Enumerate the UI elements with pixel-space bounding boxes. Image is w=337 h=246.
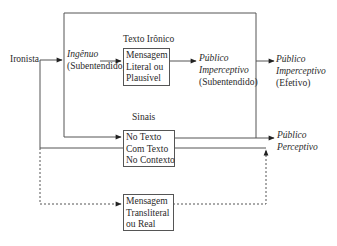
line-ironista-to-signals	[40, 60, 123, 148]
transliteral-message-box: Mensagem Transliteral ou Real	[123, 194, 174, 231]
implied-audience-type: Imperceptivo	[199, 65, 249, 77]
perceptive-audience-label: Público	[277, 130, 307, 142]
ingenuo-subtitle: (Subentendido)	[67, 61, 126, 73]
literal-message-line: Plausível	[126, 73, 167, 85]
signals-line: No Contexto	[126, 155, 172, 167]
literal-message-box: Mensagem Literal ou Plausível	[123, 48, 170, 86]
transliteral-line: Transliteral	[126, 208, 171, 220]
ironic-text-title: Texto Irônico	[123, 34, 174, 46]
literal-message-line: Mensagem	[126, 50, 167, 62]
dotted-arrow-to-transliteral	[40, 148, 121, 204]
signals-line: No Texto	[126, 132, 172, 144]
signals-line: Com Texto	[126, 144, 172, 156]
ironista-label: Ironista	[10, 54, 39, 66]
implied-audience-note: (Subentendido)	[199, 77, 258, 89]
signals-box: No Texto Com Texto No Contexto	[123, 130, 175, 167]
transliteral-line: ou Real	[126, 219, 171, 231]
ingenuo-label: Ingênuo	[67, 49, 98, 61]
dotted-arrow-transliteral-to-perceptive	[173, 150, 266, 204]
signals-title: Sinais	[132, 112, 155, 124]
actual-audience-type: Imperceptivo	[276, 66, 326, 78]
implied-audience-label: Público	[199, 53, 229, 65]
transliteral-line: Mensagem	[126, 196, 171, 208]
perceptive-audience-type: Perceptivo	[277, 142, 318, 154]
literal-message-line: Literal ou	[126, 62, 167, 74]
actual-audience-note: (Efetivo)	[276, 78, 310, 90]
actual-audience-label: Público	[276, 54, 306, 66]
